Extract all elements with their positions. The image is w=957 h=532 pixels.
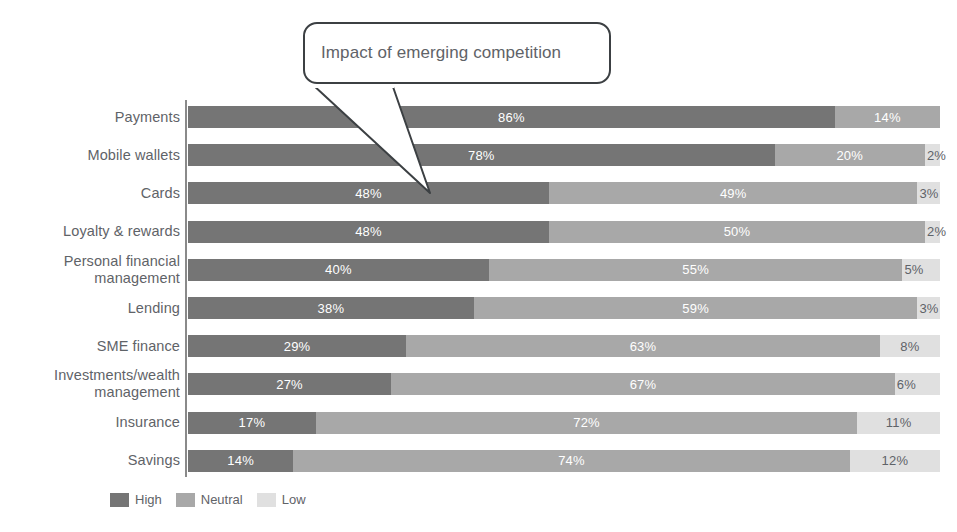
bar-segment-value: 74% [558,453,585,468]
category-label: SME finance [0,338,180,355]
bar-segment-value: 14% [874,110,901,125]
bar-segment-value: 14% [227,453,254,468]
category-label: Loyalty & rewards [0,223,180,240]
bar-segment-value: 48% [355,186,382,201]
bar-segment-low[interactable]: 2% [925,144,940,166]
bar-segment-neutral[interactable]: 20% [775,144,925,166]
category-label-line: SME finance [0,338,180,355]
legend-item[interactable]: Neutral [176,492,243,507]
category-label-line: Personal financial [0,253,180,270]
bar-row[interactable]: 38%59%3% [188,297,940,319]
bar-segment-value: 3% [919,186,938,201]
legend-item[interactable]: Low [257,492,306,507]
category-label-line: Loyalty & rewards [0,223,180,240]
bar-segment-low[interactable]: 12% [850,450,940,472]
bar-row[interactable]: 17%72%11% [188,412,940,434]
category-label-line: Mobile wallets [0,147,180,164]
legend-label: Low [282,492,306,507]
bar-segment-value: 72% [573,415,600,430]
bar-segment-value: 48% [355,224,382,239]
bar-segment-value: 20% [836,148,863,163]
bar-segment-low[interactable]: 2% [925,221,940,243]
legend-item[interactable]: High [110,492,162,507]
bar-segment-low[interactable]: 3% [917,182,940,204]
bar-segment-value: 12% [882,453,909,468]
bar-segment-low[interactable]: 3% [917,297,940,319]
category-label: Lending [0,300,180,317]
bar-row[interactable]: 48%50%2% [188,221,940,243]
bar-segment-high[interactable]: 40% [188,259,489,281]
legend-label: Neutral [201,492,243,507]
bar-segment-value: 78% [468,148,495,163]
bar-segment-value: 11% [886,415,912,430]
bar-segment-value: 55% [682,262,709,277]
bar-row[interactable]: 78%20%2% [188,144,940,166]
bar-segment-high[interactable]: 38% [188,297,474,319]
bar-segment-value: 17% [239,415,266,430]
bar-row[interactable]: 48%49%3% [188,182,940,204]
chart-legend: HighNeutralLow [110,492,313,507]
bar-segment-value: 27% [276,377,303,392]
bar-segment-value: 2% [927,224,946,239]
category-label-line: management [0,384,180,401]
bar-segment-high[interactable]: 86% [188,106,835,128]
y-axis-line [185,100,187,477]
bar-segment-low[interactable]: 8% [880,335,940,357]
bar-segment-value: 86% [498,110,525,125]
legend-swatch-icon [176,493,195,507]
bar-segment-neutral[interactable]: 74% [293,450,849,472]
bar-segment-neutral[interactable]: 63% [406,335,880,357]
plot-area: Payments86%14%Mobile wallets78%20%2%Card… [0,0,957,532]
bar-segment-high[interactable]: 14% [188,450,293,472]
bar-segment-value: 29% [284,339,311,354]
bar-segment-neutral[interactable]: 14% [835,106,940,128]
bar-segment-value: 3% [919,301,938,316]
bar-segment-value: 5% [904,262,923,277]
bar-segment-value: 49% [720,186,747,201]
bar-row[interactable]: 27%67%6% [188,373,940,395]
bar-segment-value: 6% [897,377,916,392]
bar-row[interactable]: 40%55%5% [188,259,940,281]
category-label-line: Investments/wealth [0,367,180,384]
bar-segment-low[interactable]: 5% [902,259,940,281]
bar-segment-high[interactable]: 27% [188,373,391,395]
bar-segment-value: 2% [927,148,946,163]
category-label-line: management [0,270,180,287]
category-label-line: Lending [0,300,180,317]
bar-segment-high[interactable]: 78% [188,144,775,166]
category-label: Savings [0,452,180,469]
bar-segment-neutral[interactable]: 59% [474,297,918,319]
category-label-line: Payments [0,109,180,126]
category-label: Cards [0,185,180,202]
bar-segment-high[interactable]: 17% [188,412,316,434]
category-label: Payments [0,109,180,126]
legend-swatch-icon [257,493,276,507]
bar-segment-value: 40% [325,262,352,277]
bar-row[interactable]: 86%14% [188,106,940,128]
bar-segment-value: 59% [682,301,709,316]
bar-segment-high[interactable]: 48% [188,221,549,243]
bar-row[interactable]: 29%63%8% [188,335,940,357]
category-label-line: Insurance [0,414,180,431]
bar-row[interactable]: 14%74%12% [188,450,940,472]
bar-segment-low[interactable]: 6% [895,373,940,395]
category-label: Insurance [0,414,180,431]
bar-segment-value: 8% [900,339,919,354]
category-label: Investments/wealthmanagement [0,367,180,401]
bar-segment-high[interactable]: 48% [188,182,549,204]
bar-segment-value: 38% [318,301,345,316]
bar-segment-neutral[interactable]: 67% [391,373,895,395]
legend-label: High [135,492,162,507]
bar-segment-value: 67% [630,377,657,392]
bar-segment-neutral[interactable]: 55% [489,259,903,281]
bar-segment-neutral[interactable]: 72% [316,412,857,434]
bar-segment-value: 63% [630,339,657,354]
bar-segment-low[interactable]: 11% [857,412,940,434]
bar-segment-neutral[interactable]: 50% [549,221,925,243]
bar-segment-value: 50% [724,224,751,239]
category-label-line: Savings [0,452,180,469]
bar-segment-high[interactable]: 29% [188,335,406,357]
legend-swatch-icon [110,493,129,507]
category-label: Personal financialmanagement [0,253,180,287]
bar-segment-neutral[interactable]: 49% [549,182,917,204]
